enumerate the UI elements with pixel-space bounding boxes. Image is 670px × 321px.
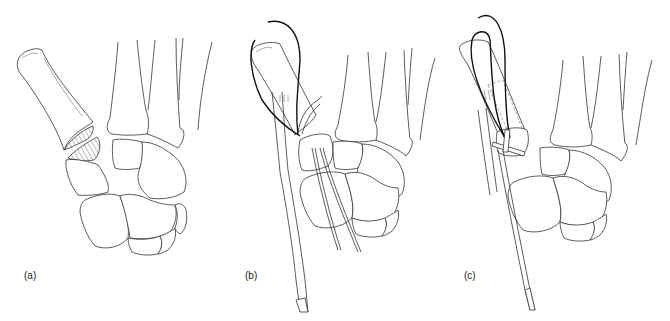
illustration-canvas	[0, 0, 670, 321]
panel-label-b: (b)	[245, 270, 257, 281]
panel-a-drawing	[17, 38, 212, 255]
panel-c-drawing	[459, 16, 652, 310]
panel-b-drawing	[251, 21, 435, 312]
panel-label-c: (c)	[464, 270, 476, 281]
surgical-illustration-figure: (a) (b) (c)	[0, 0, 670, 321]
panel-label-a: (a)	[24, 270, 36, 281]
